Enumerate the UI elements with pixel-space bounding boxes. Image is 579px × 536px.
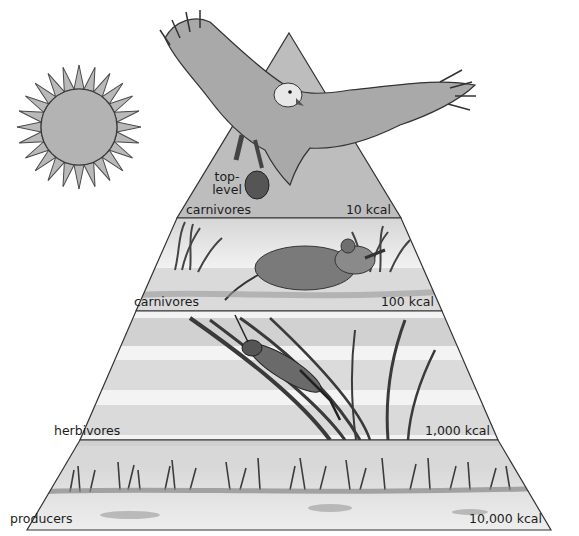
label-top-level-carnivores-line3: carnivores [186,203,251,216]
label-producers: producers [10,512,73,525]
label-herbivores: herbivores [54,424,120,437]
energy-producers: 10,000 kcal [430,512,542,525]
label-carnivores: carnivores [134,295,199,308]
sun-icon [17,65,141,189]
energy-herbivores: 1,000 kcal [390,424,490,437]
label-line: level [196,183,258,196]
energy-top-level-carnivores: 10 kcal [315,203,391,216]
energy-pyramid-diagram [0,0,579,536]
label-top-level-carnivores: top- level [196,170,258,196]
tier-herbivores [80,311,500,440]
energy-carnivores: 100 kcal [350,295,434,308]
